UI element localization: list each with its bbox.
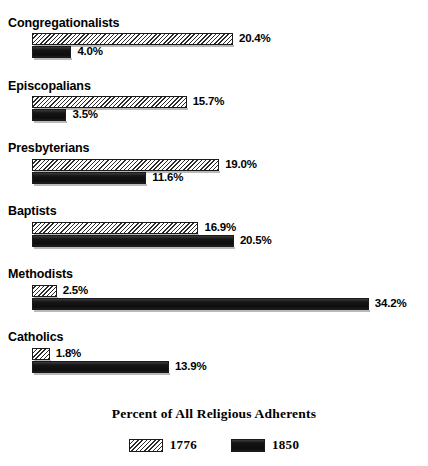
- bar-1850[interactable]: [32, 235, 234, 247]
- bar-1776[interactable]: [32, 222, 198, 234]
- bar-1776[interactable]: [32, 33, 233, 45]
- bar-value-label: 2.5%: [63, 284, 88, 296]
- bar-1776[interactable]: [32, 159, 219, 171]
- bar-value-label: 20.5%: [240, 234, 272, 246]
- legend-item-1850[interactable]: 1850: [231, 437, 299, 453]
- chart-title: Percent of All Religious Adherents: [0, 406, 428, 422]
- cropped-header-text: [24, 0, 354, 5]
- bar-1776[interactable]: [32, 285, 57, 297]
- legend-swatch-hatch: [129, 439, 163, 452]
- bar-1850[interactable]: [32, 46, 71, 58]
- bar-value-label: 11.6%: [152, 171, 183, 183]
- bar-value-label: 1.8%: [56, 347, 81, 359]
- bar-value-label: 13.9%: [175, 360, 207, 372]
- bar-1776[interactable]: [32, 96, 187, 108]
- chart-legend: 17761850: [0, 437, 428, 453]
- legend-item-1776[interactable]: 1776: [129, 437, 197, 453]
- category-label: Baptists: [8, 204, 57, 218]
- bar-value-label: 20.4%: [239, 32, 271, 44]
- bar-1850[interactable]: [32, 298, 369, 310]
- bar-1776[interactable]: [32, 348, 50, 360]
- bar-value-label: 16.9%: [204, 221, 236, 233]
- category-label: Episcopalians: [8, 79, 91, 93]
- legend-label: 1776: [170, 437, 197, 453]
- bar-value-label: 15.7%: [193, 95, 225, 107]
- bar-1850[interactable]: [32, 361, 169, 373]
- bar-value-label: 4.0%: [77, 45, 102, 57]
- legend-swatch-solid: [231, 439, 265, 452]
- legend-label: 1850: [272, 437, 299, 453]
- horizontal-bar-chart: Congregationalists20.4%4.0%Episcopalians…: [0, 0, 428, 466]
- bar-value-label: 19.0%: [225, 158, 257, 170]
- category-label: Presbyterians: [8, 141, 89, 155]
- category-label: Congregationalists: [8, 16, 119, 30]
- bar-1850[interactable]: [32, 172, 146, 184]
- bar-1850[interactable]: [32, 109, 66, 121]
- bar-value-label: 34.2%: [375, 297, 407, 309]
- category-label: Catholics: [8, 330, 63, 344]
- bar-value-label: 3.5%: [72, 108, 97, 120]
- category-label: Methodists: [8, 267, 73, 281]
